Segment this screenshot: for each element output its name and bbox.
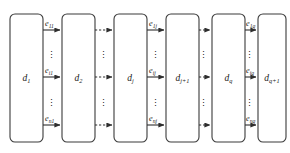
connector-gap-5: e1q eiq enq bbox=[245, 19, 256, 125]
vertical-ellipsis-icon-col4-lower: ⋮ bbox=[199, 98, 208, 108]
node-sub-dj1: j+1 bbox=[179, 77, 189, 84]
vertical-ellipsis-icon-col3-upper: ⋮ bbox=[151, 50, 160, 60]
vertical-ellipsis-icon-col3-lower: ⋮ bbox=[151, 98, 160, 108]
edge-label-en1: en1 bbox=[45, 114, 54, 124]
node-chain-diagram: d1 d2 dj dj+1 dq dq+1 e11 bbox=[0, 0, 290, 153]
edge-label-e11: e11 bbox=[45, 19, 54, 29]
edge-label-enj: enj bbox=[149, 114, 157, 124]
vertical-ellipsis-icon-col1-lower: ⋮ bbox=[47, 98, 56, 108]
vertical-ellipsis-icon-col5-lower: ⋮ bbox=[245, 98, 254, 108]
connector-gap-4 bbox=[199, 30, 210, 125]
connector-gap-1: e11 ei1 en1 bbox=[43, 19, 60, 125]
node-sub-dq: q bbox=[229, 77, 232, 84]
vertical-ellipsis-icon-col4-upper: ⋮ bbox=[199, 50, 208, 60]
connector-gap-3: e1j eij enj bbox=[147, 19, 164, 125]
diagram-canvas: d1 d2 dj dj+1 dq dq+1 e11 bbox=[0, 0, 290, 153]
node-sub-d1: 1 bbox=[27, 77, 30, 84]
edge-label-e1j: e1j bbox=[149, 19, 157, 29]
edge-label-eij: eij bbox=[149, 66, 156, 76]
vertical-ellipsis-icon-col2-lower: ⋮ bbox=[99, 98, 108, 108]
edge-label-eiq: eiq bbox=[246, 66, 254, 76]
edge-label-ei1: ei1 bbox=[45, 66, 53, 76]
connector-gap-2 bbox=[95, 30, 112, 125]
edge-label-e1q: e1q bbox=[246, 19, 255, 29]
node-sub-dj: j bbox=[131, 77, 134, 84]
edge-label-enq: enq bbox=[246, 114, 255, 124]
vertical-ellipsis-icon-col5-upper: ⋮ bbox=[245, 50, 254, 60]
vertical-ellipsis-icon-col2-upper: ⋮ bbox=[99, 50, 108, 60]
vertical-ellipsis-icon-col1-upper: ⋮ bbox=[47, 50, 56, 60]
node-sub-dq1: q+1 bbox=[269, 77, 280, 84]
